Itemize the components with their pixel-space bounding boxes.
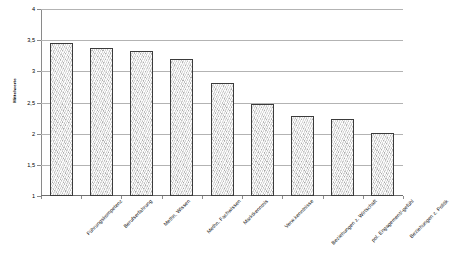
bar (211, 83, 234, 196)
bar (291, 116, 314, 196)
bar (170, 59, 193, 196)
x-axis-label: Führungskompetenz (85, 198, 123, 236)
bar (90, 48, 113, 196)
x-axis-label: pol. Engagement/-gefühl (370, 198, 415, 243)
y-tick (37, 9, 41, 10)
bar (251, 104, 274, 196)
y-tick-label: 2 (32, 131, 35, 137)
y-tick-label: 3 (32, 68, 35, 74)
x-axis-label: Berufserfahrung (122, 198, 153, 229)
bar (50, 43, 73, 196)
y-tick-label: 4 (32, 6, 35, 12)
y-tick (37, 165, 41, 166)
plot-area: 43,532,521,51 (41, 9, 403, 196)
gridline (41, 9, 403, 10)
bar (130, 51, 153, 196)
bar (331, 119, 354, 196)
gridline (41, 40, 403, 41)
y-tick-label: 1 (32, 193, 35, 199)
x-tick (403, 196, 404, 199)
x-axis-label: Methn. Fachwissen (205, 198, 241, 234)
y-tick (37, 71, 41, 72)
y-tick (37, 103, 41, 104)
bar (371, 133, 394, 196)
y-tick-label: 3,5 (27, 37, 35, 43)
y-axis-title: Mittelwerte (12, 61, 17, 121)
y-tick (37, 134, 41, 135)
x-axis-label: Beziehungen z. Politik (408, 198, 449, 239)
y-tick (37, 40, 41, 41)
y-tick-label: 2,5 (27, 100, 35, 106)
x-axis-label: Verw.kenntnisse (283, 198, 314, 229)
x-axis-label: Marktkenntnis (242, 198, 270, 226)
x-axis-label: Methn. Wissen (162, 198, 191, 227)
y-tick-label: 1,5 (27, 162, 35, 168)
x-axis-labels: FührungskompetenzBerufserfahrungMethn. W… (41, 198, 403, 258)
